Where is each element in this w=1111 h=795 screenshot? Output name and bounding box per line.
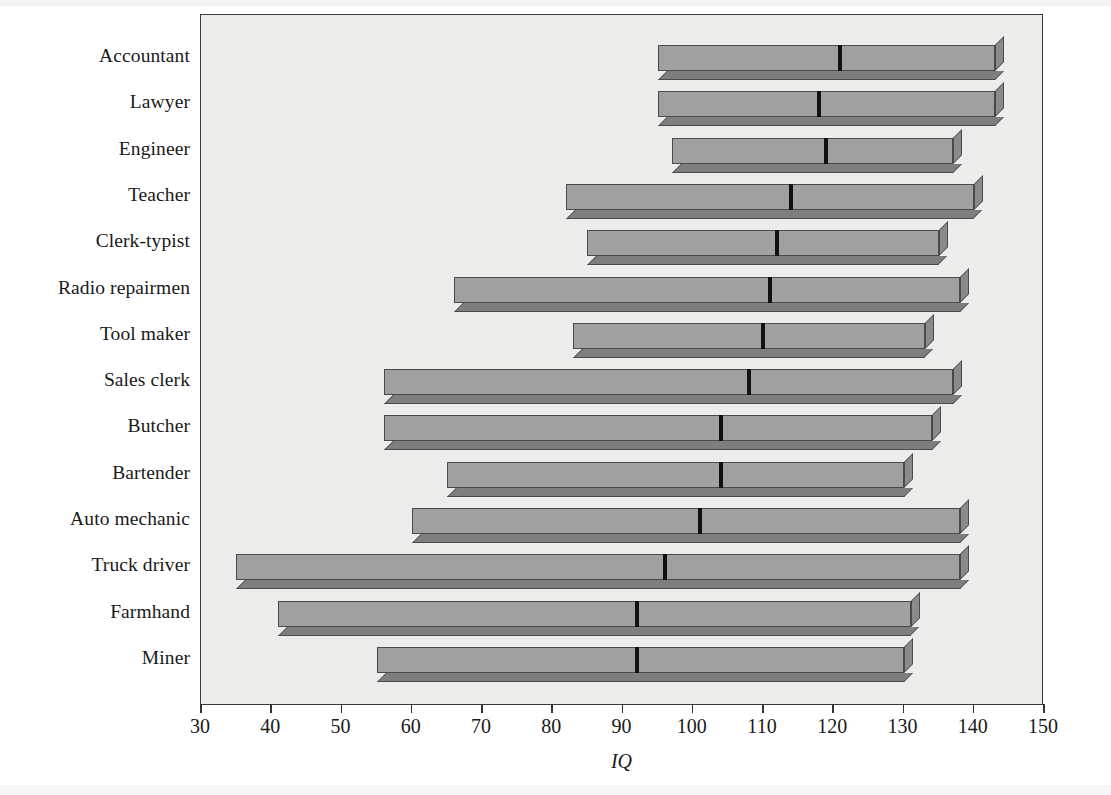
bar-right-face bbox=[960, 545, 969, 580]
bar-bottom-face bbox=[278, 627, 919, 636]
bar-front-face bbox=[658, 91, 995, 117]
x-axis-tick bbox=[341, 704, 343, 713]
range-bar bbox=[454, 277, 960, 312]
x-axis-tick-label: 80 bbox=[541, 715, 561, 738]
category-label: Accountant bbox=[0, 45, 202, 67]
category-axis-labels: AccountantLawyerEngineerTeacherClerk-typ… bbox=[0, 0, 190, 795]
bar-front-face bbox=[672, 138, 953, 164]
category-label: Tool maker bbox=[0, 323, 202, 345]
median-marker bbox=[663, 554, 667, 580]
bar-right-face bbox=[925, 314, 934, 349]
median-marker bbox=[747, 369, 751, 395]
bar-right-face bbox=[939, 221, 948, 256]
bar-bottom-face bbox=[587, 256, 947, 265]
bar-bottom-face bbox=[454, 303, 969, 312]
bar-front-face bbox=[377, 647, 904, 673]
bar-bottom-face bbox=[447, 488, 913, 497]
range-bar bbox=[566, 184, 973, 219]
x-axis-tick bbox=[551, 704, 553, 713]
range-bar bbox=[384, 369, 953, 404]
range-bar bbox=[412, 508, 960, 543]
category-label: Butcher bbox=[0, 415, 202, 437]
range-bar bbox=[278, 601, 910, 636]
bar-bottom-face bbox=[384, 395, 962, 404]
x-axis-tick bbox=[270, 704, 272, 713]
range-bar bbox=[236, 554, 960, 589]
range-bar bbox=[573, 323, 924, 358]
category-label: Radio repairmen bbox=[0, 277, 202, 299]
median-marker bbox=[768, 277, 772, 303]
bar-bottom-face bbox=[377, 673, 913, 682]
bar-right-face bbox=[960, 499, 969, 534]
bar-front-face bbox=[573, 323, 924, 349]
bar-right-face bbox=[953, 129, 962, 164]
bar-bottom-face bbox=[658, 117, 1004, 126]
category-label: Miner bbox=[0, 647, 202, 669]
bar-right-face bbox=[995, 36, 1004, 71]
x-axis-tick-label: 140 bbox=[958, 715, 988, 738]
bar-right-face bbox=[960, 268, 969, 303]
bar-front-face bbox=[384, 369, 953, 395]
category-label: Farmhand bbox=[0, 601, 202, 623]
bars-container bbox=[201, 15, 1042, 704]
range-bar bbox=[447, 462, 904, 497]
range-bar bbox=[658, 91, 995, 126]
x-axis-tick bbox=[973, 704, 975, 713]
median-marker bbox=[698, 508, 702, 534]
x-axis-tick-label: 60 bbox=[401, 715, 421, 738]
category-label: Clerk-typist bbox=[0, 230, 202, 252]
bar-bottom-face bbox=[384, 441, 941, 450]
median-marker bbox=[817, 91, 821, 117]
category-label: Lawyer bbox=[0, 91, 202, 113]
x-axis-tick-label: 100 bbox=[677, 715, 707, 738]
category-label: Teacher bbox=[0, 184, 202, 206]
category-label: Truck driver bbox=[0, 554, 202, 576]
range-bar bbox=[384, 415, 932, 450]
bar-front-face bbox=[658, 45, 995, 71]
x-axis-tick-label: 120 bbox=[817, 715, 847, 738]
median-marker bbox=[775, 230, 779, 256]
bar-right-face bbox=[932, 406, 941, 441]
bar-right-face bbox=[995, 82, 1004, 117]
range-bar bbox=[672, 138, 953, 173]
category-label: Bartender bbox=[0, 462, 202, 484]
bar-front-face bbox=[566, 184, 973, 210]
bar-bottom-face bbox=[566, 210, 982, 219]
bar-bottom-face bbox=[412, 534, 969, 543]
bar-right-face bbox=[953, 360, 962, 395]
median-marker bbox=[824, 138, 828, 164]
category-label: Auto mechanic bbox=[0, 508, 202, 530]
x-axis-tick bbox=[411, 704, 413, 713]
bar-right-face bbox=[904, 638, 913, 673]
bar-bottom-face bbox=[658, 71, 1004, 80]
x-axis-tick bbox=[832, 704, 834, 713]
iq-by-occupation-chart: AccountantLawyerEngineerTeacherClerk-typ… bbox=[0, 0, 1111, 795]
bar-right-face bbox=[974, 175, 983, 210]
x-axis-tick-label: 110 bbox=[747, 715, 776, 738]
bar-front-face bbox=[412, 508, 960, 534]
x-axis-tick-label: 70 bbox=[471, 715, 491, 738]
x-axis-tick-label: 150 bbox=[1028, 715, 1058, 738]
bar-bottom-face bbox=[236, 580, 969, 589]
x-axis-tick-label: 90 bbox=[612, 715, 632, 738]
bar-right-face bbox=[904, 453, 913, 488]
median-marker bbox=[838, 45, 842, 71]
x-axis-title: IQ bbox=[611, 750, 632, 773]
bar-front-face bbox=[587, 230, 938, 256]
x-axis-tick-label: 50 bbox=[331, 715, 351, 738]
x-axis-tick bbox=[903, 704, 905, 713]
median-marker bbox=[635, 647, 639, 673]
x-axis-tick bbox=[762, 704, 764, 713]
plot-area bbox=[200, 14, 1043, 705]
bar-front-face bbox=[384, 415, 932, 441]
median-marker bbox=[789, 184, 793, 210]
median-marker bbox=[719, 415, 723, 441]
x-axis-tick-label: 130 bbox=[888, 715, 918, 738]
x-axis-tick-label: 30 bbox=[190, 715, 210, 738]
median-marker bbox=[635, 601, 639, 627]
bar-front-face bbox=[447, 462, 904, 488]
bar-front-face bbox=[454, 277, 960, 303]
range-bar bbox=[587, 230, 938, 265]
bar-bottom-face bbox=[672, 164, 962, 173]
x-axis-tick bbox=[622, 704, 624, 713]
